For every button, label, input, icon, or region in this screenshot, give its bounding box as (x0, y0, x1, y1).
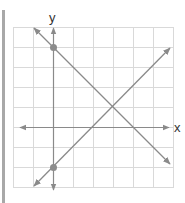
grid (14, 28, 174, 188)
x-axis-label: x (174, 120, 181, 135)
y-axis-label: y (49, 10, 56, 25)
point-y-intercept-bottom (50, 164, 57, 171)
coordinate-plane: x y (0, 0, 185, 203)
point-y-intercept-top (50, 44, 57, 51)
